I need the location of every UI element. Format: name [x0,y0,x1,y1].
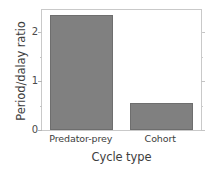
y-axis-tick-right [201,81,205,82]
plot-area [42,10,201,130]
x-axis-tick-label: Predator-prey [41,133,121,145]
y-axis-tick [38,130,42,131]
x-axis-label: Cycle type [41,150,202,164]
y-axis-tick [38,81,42,82]
y-axis-tick-labels: 012 [22,0,38,174]
y-axis-minor-tick-right [201,106,203,107]
x-axis-tick-labels: Predator-preyCohort [41,133,202,147]
y-axis-tick-right [201,130,205,131]
y-axis-tick-label: 2 [24,27,38,37]
bar [50,15,113,130]
plot-frame [41,9,202,131]
y-axis-minor-tick-right [201,32,203,33]
y-axis-minor-tick [40,57,42,58]
y-axis-minor-tick [40,106,42,107]
bar-chart-figure: Period/dalay ratio 012 Predator-preyCoho… [0,0,215,174]
y-axis-minor-tick-right [201,57,203,58]
bar [130,103,193,130]
y-axis-tick-label: 1 [24,76,38,86]
y-axis-tick-label: 0 [24,125,38,135]
x-axis-tick-label: Cohort [121,133,201,145]
y-axis-minor-tick [40,32,42,33]
